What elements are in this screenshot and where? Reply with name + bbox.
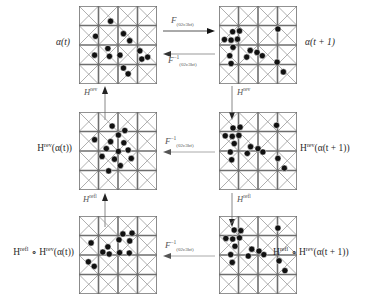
lattice-dot [106, 53, 112, 59]
lattice-dot [92, 137, 98, 143]
lattice-dot [275, 155, 281, 161]
lattice-dot [227, 53, 233, 59]
lattice-dot [128, 155, 134, 161]
arrow-label-middle-backward: F−1(02c3bf) [165, 137, 194, 146]
label-h-rev-alpha-t1-sup: rev [307, 142, 315, 148]
arrow-sup-refl-right: refl [243, 193, 251, 199]
lattice-dot [228, 252, 234, 258]
lattice-dot [273, 122, 279, 128]
arrow-label-bottom-backward: F−1(02c3bf) [165, 241, 194, 250]
lattice-dot [230, 44, 236, 50]
lattice-dot [280, 69, 286, 75]
panel-h-refl-h-rev-alpha-t [79, 216, 157, 294]
lattice-dot [236, 28, 242, 34]
panel-h-rev-alpha-t [79, 112, 157, 190]
lattice-dot [261, 252, 267, 258]
arrow-label-top-backward: F−1(02c3bf) [168, 56, 197, 65]
lattice-dot [245, 253, 251, 259]
lattice-dot [276, 258, 282, 264]
lattice-dot [117, 163, 123, 169]
lattice-dot [106, 168, 112, 174]
lattice-dot [117, 52, 123, 58]
arrow-sub-middle: (02c3bf) [176, 143, 193, 148]
lattice-dot [106, 251, 112, 257]
lattice-dot [228, 37, 234, 43]
arrow-top-forward [163, 27, 215, 35]
lattice-dot [231, 227, 237, 233]
lattice-dot [111, 156, 117, 162]
lattice-dot [274, 59, 280, 65]
lattice-dot [275, 26, 281, 32]
lattice-dot [115, 132, 121, 138]
label-brha-arg: (α(t)) [54, 247, 74, 257]
lattice-dot [145, 54, 151, 60]
label-brhb-sup2: rev [306, 246, 314, 252]
lattice-dot [228, 60, 234, 66]
lattice-dot [282, 268, 288, 274]
panel-h-rev-alpha-t-plus-1 [219, 112, 297, 190]
label-brhb-H1: H [273, 247, 280, 257]
lattice-grid-bottom-left [79, 216, 157, 294]
arrow-sup-bottom: −1 [171, 239, 177, 245]
lattice-dot [229, 133, 235, 139]
arrow-label-right-down-refl: Hrefl [237, 195, 251, 204]
lattice-dot [244, 54, 250, 60]
lattice-dot [116, 237, 122, 243]
panel-alpha-t [79, 6, 157, 84]
lattice-dot [236, 235, 242, 241]
lattice-dot [227, 149, 233, 155]
lattice-dot [125, 71, 131, 77]
arrow-label-top-forward: F(02c3bf) [171, 16, 194, 25]
label-h-rev-alpha-t1-H: H [300, 143, 307, 153]
lattice-dot [105, 45, 111, 51]
lattice-dot [244, 150, 250, 156]
label-h-rev-alpha-t: Hrev(α(t)) [2, 144, 72, 154]
label-brhb-mid: ∘ H [288, 247, 306, 257]
lattice-grid-top-left [79, 6, 157, 84]
lattice-dot [126, 250, 132, 256]
arrow-sub-bottom: (02c3bf) [176, 247, 193, 252]
lattice-dot [236, 132, 242, 138]
lattice-dot [92, 33, 98, 39]
lattice-dot [92, 52, 98, 58]
lattice-dot [231, 140, 237, 146]
lattice-dot [247, 47, 253, 53]
lattice-dot [103, 146, 109, 152]
lattice-dot [275, 225, 281, 231]
lattice-dot [223, 235, 229, 241]
lattice-dot [85, 259, 91, 265]
lattice-dot [109, 123, 115, 129]
label-alpha-t: α(t) [12, 38, 70, 48]
label-brhb-arg: (α(t + 1)) [314, 247, 349, 257]
arrow-sub-backward: (02c3bf) [179, 62, 196, 67]
arrow-sub-forward: (02c3bf) [177, 22, 194, 27]
arrow-sup-middle: −1 [171, 135, 177, 141]
lattice-dot [238, 228, 244, 234]
label-alpha-t-plus-1: α(t + 1) [305, 38, 335, 48]
lattice-dot [230, 125, 236, 131]
lattice-dot [260, 149, 266, 155]
lattice-dot [237, 124, 243, 130]
lattice-dot [100, 249, 106, 255]
lattice-dot [91, 263, 97, 269]
arrow-label-left-up-refl: Hrefl [83, 195, 97, 204]
lattice-dot [229, 157, 235, 163]
lattice-dot [222, 133, 228, 139]
lattice-dot [115, 148, 121, 154]
label-brha-sup2: rev [46, 246, 54, 252]
label-h-rev-alpha-t-plus-1: Hrev(α(t + 1)) [300, 144, 350, 154]
lattice-dot [107, 18, 113, 24]
arrow-sup-rev-left: rev [90, 86, 97, 92]
arrow-sup-rev-right: rev [243, 86, 250, 92]
lattice-dot [107, 139, 113, 145]
arrow-label-left-up-rev: Hrev [84, 88, 97, 97]
lattice-dot [234, 36, 240, 42]
lattice-dot [232, 243, 238, 249]
label-h-refl-h-rev-alpha-t: Hrefl ∘ Hrev(α(t)) [0, 248, 74, 258]
lattice-dot [129, 230, 135, 236]
label-brha-mid: ∘ H [28, 247, 46, 257]
lattice-dot [230, 236, 236, 242]
arrow-bottom-backward [163, 252, 215, 260]
lattice-dot [122, 127, 128, 133]
